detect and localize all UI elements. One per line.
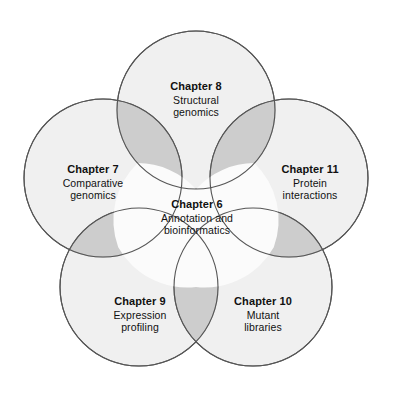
venn-svg	[0, 0, 393, 415]
venn-diagram: Chapter 8 Structural genomics Chapter 7 …	[0, 0, 393, 415]
